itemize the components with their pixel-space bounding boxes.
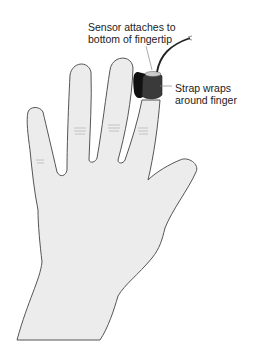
sensor-label: Sensor attaches to bottom of fingertip [88, 21, 176, 45]
sensor-leader-line [146, 46, 152, 70]
strap-label: Strap wraps around finger [175, 82, 237, 106]
strap-label-line1: Strap wraps [175, 82, 237, 94]
sensor-label-line1: Sensor attaches to [88, 21, 176, 33]
hand-outline [17, 58, 197, 340]
sensor-top [145, 72, 161, 77]
sensor-label-line2: bottom of fingertip [88, 33, 176, 45]
hand-illustration [0, 0, 253, 352]
strap-label-line2: around finger [175, 94, 237, 106]
